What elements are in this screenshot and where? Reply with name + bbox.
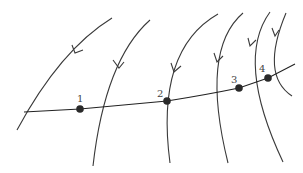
- field-line-2: [93, 20, 150, 166]
- field-line-1: [17, 18, 112, 130]
- point-3: [235, 84, 243, 92]
- arrow-icon: [214, 53, 223, 62]
- arrow-icon: [248, 38, 256, 46]
- point-4: [264, 74, 272, 82]
- point-label-4: 4: [259, 64, 265, 74]
- point-label-2: 2: [157, 89, 163, 99]
- point-2: [163, 97, 171, 105]
- diagram-canvas: 1 2 3 4: [0, 0, 303, 173]
- field-lines-diagram: [0, 0, 303, 173]
- field-line-3: [167, 14, 218, 163]
- point-label-1: 1: [77, 94, 83, 104]
- point-1: [76, 105, 84, 113]
- field-line-6: [274, 13, 292, 96]
- point-label-3: 3: [231, 75, 237, 85]
